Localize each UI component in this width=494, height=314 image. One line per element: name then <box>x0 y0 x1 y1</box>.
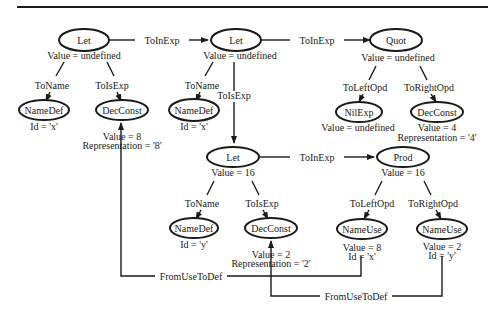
node-nilexp: NilExp Value = undefined <box>321 102 394 133</box>
node-label: NameDef <box>175 105 215 116</box>
node-quot: Quot Value = undefined <box>361 29 434 63</box>
node-attr: Value = undefined <box>361 52 434 63</box>
node-label: DecConst <box>417 107 457 118</box>
node-label: NameUse <box>422 224 462 235</box>
edge-let1-to-decconst1: ToIsExp <box>95 62 129 101</box>
edge-let3-to-prod: ToInExp <box>260 152 374 163</box>
node-label: Prod <box>394 152 413 163</box>
edge-label: ToRightOpd <box>408 198 458 209</box>
node-label: NameDef <box>25 105 65 116</box>
node-label: NameDef <box>175 223 215 234</box>
node-label: Let <box>229 35 243 46</box>
edge-label: ToName <box>185 198 220 209</box>
node-attr: Value = undefined <box>203 50 276 61</box>
edge-let2-to-let3: ToIsExp <box>216 62 252 143</box>
node-attr: Id = 'x' <box>180 121 208 132</box>
edge-label: FromUseToDef <box>325 291 388 302</box>
edge-let3-to-decconst3: ToIsExp <box>245 181 279 219</box>
edge-let2-to-quot: ToInExp <box>261 35 370 46</box>
edge-label: ToInExp <box>145 35 180 46</box>
node-let-2: Let Value = undefined <box>203 29 276 61</box>
edge-let2-to-namedef2: ToName <box>185 62 220 101</box>
node-attr: Value = 16 <box>211 167 254 178</box>
node-let-1: Let Value = undefined <box>47 29 120 61</box>
node-label: Quot <box>386 35 406 46</box>
edge-label: ToIsExp <box>95 80 129 91</box>
node-label: Let <box>77 35 91 46</box>
node-attr: Id = 'x' <box>30 121 58 132</box>
node-label: DecConst <box>102 105 142 116</box>
node-attr: Representation = '2' <box>231 258 310 269</box>
node-decconst-2: DecConst Value = 4 Representation = '4' <box>397 102 476 143</box>
node-attr: Value = undefined <box>321 122 394 133</box>
edge-label: ToIsExp <box>217 90 251 101</box>
node-attr: Id = 'y' <box>180 239 208 250</box>
edge-label: ToIsExp <box>245 198 279 209</box>
edge-prod-to-nameuse2: ToRightOpd <box>408 181 458 219</box>
node-attr: Id = 'y' <box>428 250 456 261</box>
node-label: Let <box>226 152 240 163</box>
node-let-3: Let Value = 16 <box>207 147 259 178</box>
edge-label: ToName <box>185 80 220 91</box>
node-decconst-1: DecConst Value = 8 Representation = '8' <box>82 100 161 151</box>
edge-prod-to-nameuse1: ToLeftOpd <box>350 181 394 219</box>
node-label: NameUse <box>342 224 382 235</box>
node-attr: Value = undefined <box>47 50 120 61</box>
edge-label: ToName <box>35 80 70 91</box>
edge-label: ToInExp <box>300 35 335 46</box>
node-attr: Representation = '8' <box>82 140 161 151</box>
node-label: NilExp <box>345 107 374 118</box>
node-attr: Representation = '4' <box>397 132 476 143</box>
edge-label: ToRightOpd <box>404 82 454 93</box>
node-namedef-2: NameDef Id = 'x' <box>169 99 219 132</box>
diagram-canvas: ToInExp ToName ToIsExp ToInExp ToName To… <box>0 0 494 314</box>
node-nameuse-2: NameUse Value = 2 Id = 'y' <box>417 219 467 261</box>
edge-label: ToInExp <box>300 152 335 163</box>
edge-let1-to-let2: ToInExp <box>109 35 208 46</box>
edge-quot-to-decconst2: ToRightOpd <box>404 66 454 102</box>
edge-label: FromUseToDef <box>160 271 223 282</box>
node-label: DecConst <box>251 223 291 234</box>
node-nameuse-1: NameUse Value = 8 Id = 'x' <box>337 219 387 262</box>
node-attr: Value = 16 <box>381 167 424 178</box>
edge-quot-to-nilexp: ToLeftOpd <box>343 66 387 102</box>
edge-let3-to-namedef3: ToName <box>185 181 220 219</box>
node-namedef-3: NameDef Id = 'y' <box>170 218 218 250</box>
node-namedef-1: NameDef Id = 'x' <box>19 100 69 132</box>
edge-label: ToLeftOpd <box>343 82 387 93</box>
edge-label: ToLeftOpd <box>350 198 394 209</box>
node-attr: Id = 'x' <box>348 251 376 262</box>
node-prod: Prod Value = 16 <box>377 147 429 178</box>
edge-let1-to-namedef1: ToName <box>35 62 70 101</box>
